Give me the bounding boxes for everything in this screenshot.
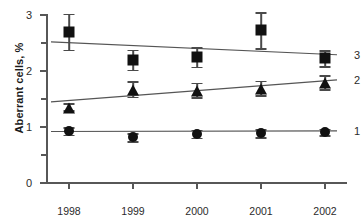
data-point-circle: [192, 129, 202, 139]
error-bar-cap: [320, 89, 331, 91]
y-axis-title: Aberrant cells, %: [13, 13, 25, 163]
x-tick-label: 2000: [185, 205, 208, 217]
error-bar-cap: [256, 81, 267, 83]
data-point-circle: [320, 127, 330, 137]
error-bar-cap: [64, 14, 75, 16]
x-tick: [260, 183, 262, 189]
y-tick-major: [40, 70, 47, 72]
x-tick: [324, 183, 326, 189]
error-bar-cap: [256, 48, 267, 50]
error-bar-cap: [128, 97, 139, 99]
error-bar-cap: [64, 50, 75, 52]
data-point-square: [192, 52, 203, 63]
x-tick-label: 1999: [121, 205, 144, 217]
error-bar-cap: [320, 50, 331, 52]
chart-container: Aberrant cells, % 0123 19981999200020012…: [0, 0, 363, 217]
x-tick: [68, 183, 70, 189]
y-tick-label: 2: [26, 65, 32, 77]
error-bar-cap: [128, 70, 139, 72]
y-tick-label: 1: [26, 121, 32, 133]
series-label-3: 3: [354, 49, 360, 61]
x-tick-label: 2002: [313, 205, 336, 217]
error-bar-cap: [320, 66, 331, 68]
y-tick-major: [40, 14, 47, 16]
data-point-circle: [256, 128, 266, 138]
data-point-circle: [64, 126, 74, 136]
data-point-square: [256, 25, 267, 36]
data-point-triangle: [255, 83, 267, 94]
error-bar-cap: [192, 67, 203, 69]
plot-area: 0123 19981999200020012002 123: [47, 15, 347, 183]
data-point-triangle: [319, 78, 331, 89]
data-point-square: [128, 54, 139, 65]
x-tick: [196, 183, 198, 189]
x-tick: [132, 183, 134, 189]
y-tick-minor: [41, 154, 47, 156]
x-tick-label: 1998: [57, 205, 80, 217]
y-tick-label: 0: [26, 177, 32, 189]
trend-lines-layer: [47, 15, 347, 183]
series-label-1: 1: [354, 125, 360, 137]
y-tick-minor: [41, 98, 47, 100]
data-point-square: [320, 53, 331, 64]
error-bar-cap: [192, 97, 203, 99]
y-tick-label: 3: [26, 9, 32, 21]
series-label-2: 2: [354, 74, 360, 86]
error-bar-cap: [192, 47, 203, 49]
data-point-triangle: [63, 102, 75, 113]
data-point-triangle: [191, 86, 203, 97]
error-bar-cap: [128, 81, 139, 83]
x-tick-label: 2001: [249, 205, 272, 217]
y-tick-minor: [41, 42, 47, 44]
y-tick-major: [40, 126, 47, 128]
data-point-square: [64, 26, 75, 37]
error-bar-cap: [320, 75, 331, 77]
y-tick-major: [40, 182, 47, 184]
error-bar-cap: [128, 50, 139, 52]
error-bar-cap: [256, 95, 267, 97]
data-point-triangle: [127, 84, 139, 95]
error-bar-cap: [256, 12, 267, 14]
error-bar-cap: [192, 83, 203, 85]
data-point-circle: [128, 132, 138, 142]
